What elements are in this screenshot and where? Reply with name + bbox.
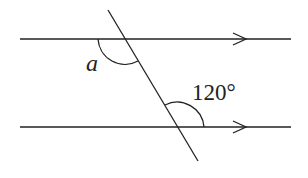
angle-a-label: a	[86, 50, 98, 76]
parallel-lines-diagram: a 120°	[0, 0, 308, 178]
angle-120-label: 120°	[192, 80, 236, 105]
transversal-line	[108, 10, 198, 161]
angle-a-arc	[98, 39, 138, 64]
